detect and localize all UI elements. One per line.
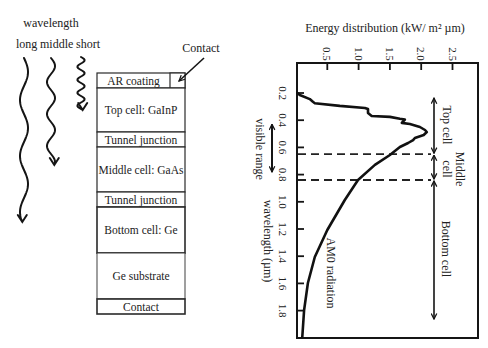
contact-callout-label: Contact	[182, 41, 220, 55]
layer-label: AR coating	[107, 75, 160, 88]
x-tick-label: 0.5	[321, 47, 333, 61]
bottom-cell-range-label: Bottom cell	[439, 221, 453, 278]
spectrum-chart: Energy distribution (kW/ m² µm) 0.51.01.…	[253, 21, 478, 338]
short-wavelength-arrow-icon	[77, 57, 87, 110]
figure: wavelength long middle short AR coating …	[0, 0, 488, 348]
middle-cell-range-label-line2: cell	[440, 160, 454, 178]
top-cell-range-label: Top cell	[440, 106, 454, 145]
y-tick-label: 1.8	[277, 304, 289, 318]
wave-label-middle: middle	[40, 37, 73, 51]
x-tick-label: 2.0	[415, 47, 427, 61]
layer-label: Top cell: GaInP	[105, 104, 178, 117]
y-tick-label: 1.0	[277, 195, 289, 209]
y-tick-label: 1.4	[277, 249, 289, 263]
visible-range-label: visible range	[253, 118, 267, 180]
x-tick-label: 2.5	[447, 47, 459, 61]
y-axis-title: wavelength (µm)	[261, 200, 275, 283]
layer-label: Ge substrate	[112, 270, 169, 282]
y-tick-label: 1.6	[277, 277, 289, 291]
am0-spectrum-curve	[297, 93, 427, 337]
long-wavelength-arrow-icon	[18, 58, 28, 222]
layer-label: Contact	[123, 301, 160, 313]
y-tick-label: 0.2	[277, 86, 289, 100]
x-tick-label: 1.0	[353, 47, 365, 61]
layer-label: Bottom cell: Ge	[104, 224, 177, 236]
layer-label: Middle cell: GaAs	[99, 164, 184, 176]
wave-label-long: long	[16, 37, 37, 51]
y-tick-label: 0.4	[277, 113, 289, 127]
x-tick-label: 1.5	[384, 47, 396, 61]
wave-label-short: short	[76, 37, 101, 51]
y-tick-label: 1.2	[277, 222, 289, 236]
y-tick-label: 0.6	[277, 141, 289, 155]
top-contact-box	[170, 73, 185, 88]
layer-label: Tunnel junction	[105, 134, 178, 147]
layer-label: Tunnel junction	[105, 194, 178, 207]
x-axis-ticks: 0.51.01.52.02.5	[321, 47, 458, 70]
x-axis-title: Energy distribution (kW/ m² µm)	[305, 21, 465, 35]
wavelength-title: wavelength	[23, 16, 78, 30]
cell-stack-diagram: wavelength long middle short AR coating …	[16, 16, 220, 314]
cell-boundary-lines	[298, 154, 431, 180]
am0-radiation-label: AM0 radiation	[324, 238, 338, 309]
contact-callout-arrow-icon	[179, 58, 204, 81]
middle-wavelength-arrow-icon	[47, 58, 59, 165]
middle-cell-range-label-line1: Middle	[453, 152, 467, 187]
y-tick-label: 0.8	[277, 168, 289, 182]
y-axis-ticks: 0.20.40.60.81.01.21.41.61.8	[277, 86, 304, 318]
